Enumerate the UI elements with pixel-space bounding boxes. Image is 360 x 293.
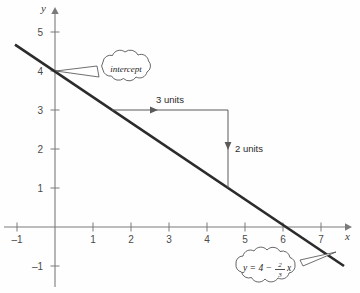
x-tick-label--1: –1 xyxy=(11,234,23,245)
rise-label: 2 units xyxy=(235,143,263,154)
run-annotation: 3 units xyxy=(112,94,228,113)
equation-numerator: 2 xyxy=(278,261,282,269)
equation-callout-tail xyxy=(300,252,336,266)
x-tick-label-1: 1 xyxy=(90,234,96,245)
axes-group xyxy=(4,7,352,287)
x-axis-label: x xyxy=(344,230,350,242)
graph-figure: –1 1 2 3 4 5 6 7 5 4 3 2 1 –1 x y 3 unit… xyxy=(0,0,360,293)
x-tick-label-7: 7 xyxy=(318,234,324,245)
y-axis-arrow-icon xyxy=(51,7,58,14)
x-tick-labels: –1 1 2 3 4 5 6 7 xyxy=(11,234,324,245)
y-tick-label-2: 2 xyxy=(37,144,43,155)
rise-arrow-icon xyxy=(225,142,232,150)
x-tick-label-4: 4 xyxy=(204,234,210,245)
y-tick-label-1: 1 xyxy=(37,183,43,194)
equation-lhs: y = 4 − xyxy=(242,263,272,273)
run-arrow-icon xyxy=(150,107,158,114)
y-tick-label--1: –1 xyxy=(32,261,44,272)
x-tick-label-6: 6 xyxy=(280,234,286,245)
x-tick-label-5: 5 xyxy=(242,234,248,245)
y-tick-label-5: 5 xyxy=(37,27,43,38)
equation-callout: y = 4 − 2 3 x xyxy=(236,247,336,282)
x-tick-label-2: 2 xyxy=(128,234,134,245)
equation-denominator: 3 xyxy=(277,271,282,279)
equation-variable: x xyxy=(286,263,292,273)
x-tick-label-3: 3 xyxy=(166,234,172,245)
y-tick-label-3: 3 xyxy=(37,105,43,116)
function-line xyxy=(15,45,344,266)
run-label: 3 units xyxy=(156,94,184,105)
coordinate-plane: –1 1 2 3 4 5 6 7 5 4 3 2 1 –1 x y 3 unit… xyxy=(0,0,360,293)
y-axis-label: y xyxy=(40,2,46,14)
rise-annotation: 2 units xyxy=(225,110,264,188)
intercept-callout-label: intercept xyxy=(110,64,142,74)
intercept-callout: intercept xyxy=(56,50,151,81)
y-tick-label-4: 4 xyxy=(37,66,43,77)
